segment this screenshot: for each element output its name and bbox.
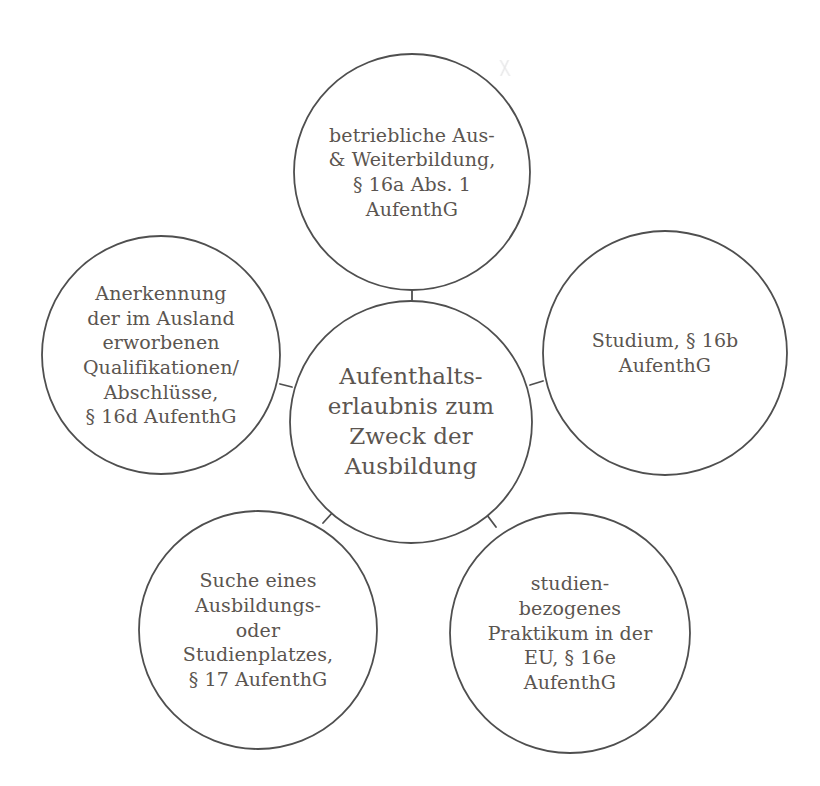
circle-suche-ausbildungsplatz (139, 511, 377, 749)
circle-studium (543, 231, 787, 475)
circle-center-aufenthaltserlaubnis (290, 301, 532, 543)
connector-center-to-left (280, 384, 292, 387)
diagram-shapes (0, 0, 820, 786)
circle-group (42, 54, 787, 753)
scan-artifact (498, 60, 512, 76)
connector-center-to-right (530, 381, 543, 385)
diagram-canvas: betriebliche Aus- & Weiterbildung, § 16a… (0, 0, 820, 786)
connector-center-to-bottom-right (487, 515, 496, 527)
circle-anerkennung-qualifikationen (42, 236, 280, 474)
circle-betriebliche-ausbildung (294, 54, 530, 290)
circle-studienbezogenes-praktikum (450, 513, 690, 753)
